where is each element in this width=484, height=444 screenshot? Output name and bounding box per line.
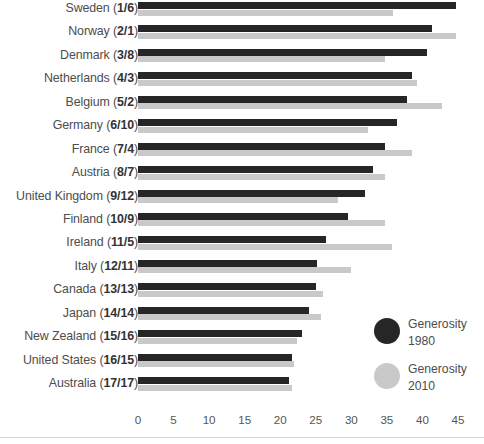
country-ranks: 13/13 xyxy=(103,282,134,296)
country-ranks: 15/16 xyxy=(103,329,134,343)
bar-generosity-2010 xyxy=(138,10,393,16)
chart-row: Denmark (3/8) xyxy=(0,47,484,70)
bar-group xyxy=(138,282,484,304)
chart-row: Norway (2/1) xyxy=(0,23,484,46)
country-name: Norway ( xyxy=(68,24,117,38)
chart-row: Belgium (5/2) xyxy=(0,94,484,117)
bar-generosity-2010 xyxy=(138,174,385,180)
x-axis-tick-label: 25 xyxy=(309,413,322,426)
bar-generosity-2010 xyxy=(138,385,292,391)
country-name: France ( xyxy=(72,142,117,156)
bar-group xyxy=(138,71,484,93)
bar-generosity-1980 xyxy=(138,190,365,197)
bar-group xyxy=(138,189,484,211)
category-label: Austria (8/7) xyxy=(0,164,138,180)
chart-row: Germany (6/10) xyxy=(0,117,484,140)
country-name: United Kingdom ( xyxy=(16,189,110,203)
bar-generosity-2010 xyxy=(138,361,294,367)
chart-row: Sweden (1/6) xyxy=(0,0,484,23)
country-ranks: 2/1 xyxy=(117,24,134,38)
country-ranks: 4/3 xyxy=(117,71,134,85)
chart-row: Ireland (11/5) xyxy=(0,234,484,257)
country-name: Ireland ( xyxy=(66,235,111,249)
bar-generosity-2010 xyxy=(138,197,338,203)
category-label: United Kingdom (9/12) xyxy=(0,188,138,204)
bar-generosity-1980 xyxy=(138,260,317,267)
bar-group xyxy=(138,259,484,281)
x-axis-tick-label: 45 xyxy=(452,413,465,426)
country-ranks: 7/4 xyxy=(117,142,134,156)
country-ranks: 8/7 xyxy=(117,165,134,179)
bar-group xyxy=(138,212,484,234)
bar-generosity-2010 xyxy=(138,244,392,250)
country-ranks: 3/8 xyxy=(117,48,134,62)
country-name: Germany ( xyxy=(53,118,111,132)
bar-generosity-1980 xyxy=(138,166,373,173)
x-axis-tick-label: 35 xyxy=(380,413,393,426)
country-name: United States ( xyxy=(23,353,103,367)
chart-row: Netherlands (4/3) xyxy=(0,70,484,93)
axis-baseline xyxy=(0,437,484,438)
country-ranks: 12/11 xyxy=(104,259,134,273)
bar-generosity-1980 xyxy=(138,330,302,337)
country-name: Australia ( xyxy=(49,376,104,390)
bar-generosity-1980 xyxy=(138,49,427,56)
category-label: Japan (14/14) xyxy=(0,305,138,321)
legend-label-line2: 1980 xyxy=(408,334,435,348)
bar-generosity-2010 xyxy=(138,338,297,344)
bar-group xyxy=(138,95,484,117)
legend-swatch-circle-icon xyxy=(374,363,400,389)
bar-generosity-2010 xyxy=(138,103,442,109)
bar-group xyxy=(138,24,484,46)
bar-generosity-1980 xyxy=(138,96,407,103)
country-name: Denmark ( xyxy=(60,48,117,62)
bar-group xyxy=(138,142,484,164)
category-label: Finland (10/9) xyxy=(0,211,138,227)
chart-row: Finland (10/9) xyxy=(0,211,484,234)
category-label: Ireland (11/5) xyxy=(0,234,138,250)
x-axis-tick-label: 20 xyxy=(274,413,287,426)
country-ranks: 1/6 xyxy=(117,1,134,15)
x-axis-tick-label: 0 xyxy=(135,413,141,426)
x-axis-tick-label: 10 xyxy=(203,413,216,426)
x-axis-tick-label: 15 xyxy=(238,413,251,426)
bar-generosity-2010 xyxy=(138,127,368,133)
legend-item-1980[interactable]: Generosity 1980 xyxy=(374,316,484,361)
legend-item-2010[interactable]: Generosity 2010 xyxy=(374,361,484,406)
bar-generosity-1980 xyxy=(138,283,316,290)
country-ranks: 16/15 xyxy=(103,353,134,367)
legend-swatch-circle-icon xyxy=(374,318,400,344)
generosity-bar-chart: Sweden (1/6)Norway (2/1)Denmark (3/8)Net… xyxy=(0,0,484,444)
country-name: Sweden ( xyxy=(65,1,117,15)
country-ranks: 10/9 xyxy=(110,212,134,226)
chart-row: United Kingdom (9/12) xyxy=(0,188,484,211)
bar-generosity-2010 xyxy=(138,56,385,62)
bar-generosity-1980 xyxy=(138,143,385,150)
bar-generosity-2010 xyxy=(138,314,321,320)
category-label: Australia (17/17) xyxy=(0,375,138,391)
category-label: Germany (6/10) xyxy=(0,117,138,133)
country-name: Japan ( xyxy=(63,306,104,320)
country-ranks: 17/17 xyxy=(103,376,134,390)
bar-generosity-1980 xyxy=(138,2,456,9)
category-label: Sweden (1/6) xyxy=(0,0,138,16)
legend-label-line1: Generosity xyxy=(408,362,467,376)
category-label: United States (16/15) xyxy=(0,352,138,368)
category-label: Denmark (3/8) xyxy=(0,47,138,63)
chart-legend: Generosity 1980 Generosity 2010 xyxy=(374,316,484,406)
country-ranks: 11/5 xyxy=(111,235,134,249)
country-ranks: 5/2 xyxy=(117,95,134,109)
x-axis: 051015202530354045 xyxy=(138,411,458,435)
category-label: France (7/4) xyxy=(0,141,138,157)
category-label: Netherlands (4/3) xyxy=(0,70,138,86)
bar-group xyxy=(138,48,484,70)
bar-generosity-1980 xyxy=(138,377,289,384)
chart-row: France (7/4) xyxy=(0,141,484,164)
chart-row: Austria (8/7) xyxy=(0,164,484,187)
bar-generosity-1980 xyxy=(138,236,326,243)
category-label: Italy (12/11) xyxy=(0,258,138,274)
country-ranks: 6/10 xyxy=(110,118,134,132)
country-ranks: 14/14 xyxy=(103,306,134,320)
x-axis-tick-label: 30 xyxy=(345,413,358,426)
country-name: Italy ( xyxy=(75,259,105,273)
